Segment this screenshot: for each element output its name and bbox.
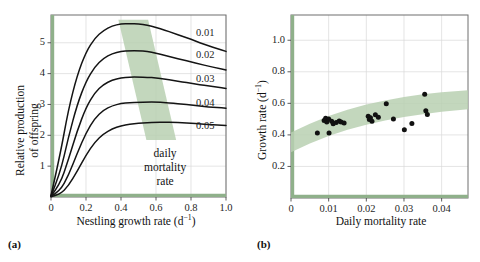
annotation-line-3: rate [156, 175, 173, 187]
panel-b-data-point [391, 116, 396, 121]
panel-b-y-tick-label: 0.6 [245, 98, 285, 109]
panel-b-data-point [425, 112, 430, 117]
panel-b-x-tick-label: 0.04 [422, 204, 462, 215]
panel-a-x-tick-label: 0.4 [101, 203, 141, 214]
panel-a-curve-0_04 [51, 102, 226, 196]
panel-b-y-tick-label: 0.2 [245, 161, 285, 172]
panel-a-x-tick-label: 0.6 [136, 203, 176, 214]
panel-a-x-tick-label: 0.2 [66, 203, 106, 214]
panel-a-curve-label-0_05: 0.05 [196, 120, 214, 131]
annotation-line-2: mortality [144, 161, 186, 173]
daily-mortality-rate-annotation: daily mortality rate [144, 146, 186, 188]
panel-a-x-axis-title: Nestling growth rate (d−1) [51, 215, 221, 227]
panel-b-data-point [342, 120, 347, 125]
panel-a-curve-label-0_03: 0.03 [196, 73, 214, 84]
panel-b-data-point [369, 119, 374, 124]
panel-a-curve-label-0_01: 0.01 [196, 27, 214, 38]
annotation-line-1: daily [154, 147, 177, 159]
figure-root: Relative production of offspring Nestlin… [0, 0, 480, 262]
panel-b-data-point [376, 115, 381, 120]
panel-a-y-tick-label: 5 [5, 37, 45, 48]
panel-b-data-point [402, 127, 407, 132]
panel-a-y-tick-label: 4 [5, 68, 45, 79]
panel-b-data-point [422, 92, 427, 97]
panel-a-x-tick-label: 0 [31, 203, 71, 214]
panel-a-x-tick-label: 0.8 [171, 203, 211, 214]
panel-b-x-tick-label: 0.02 [346, 204, 386, 215]
panel-b-y-tick-label: 1.0 [245, 35, 285, 46]
panel-b-y-axis-title: Growth rate (d−1) [256, 80, 268, 160]
panel-b-y-tick-label: 0.4 [245, 129, 285, 140]
panel-a-y-tick-label: 3 [5, 99, 45, 110]
panel-b-x-tick-label: 0 [271, 204, 311, 215]
panel-b-y-tick-label: 0.8 [245, 66, 285, 77]
panel-a-y-tick-label: 1 [5, 161, 45, 172]
panel-b: Growth rate (d−1) Daily mortality rate (… [240, 0, 480, 262]
panel-b-x-tick-label: 0.01 [309, 204, 349, 215]
panel-a: Relative production of offspring Nestlin… [0, 0, 240, 262]
panel-b-data-point [327, 131, 332, 136]
panel-letter-b: (b) [257, 238, 270, 250]
panel-a-y-tick-label: 2 [5, 130, 45, 141]
panel-b-x-tick-label: 0.03 [384, 204, 424, 215]
panel-letter-a: (a) [8, 238, 21, 250]
panel-a-curve-label-0_04: 0.04 [196, 97, 214, 108]
panel-b-data-point [409, 121, 414, 126]
panel-b-data-point [315, 131, 320, 136]
panel-a-curve-label-0_02: 0.02 [196, 49, 214, 60]
panel-b-x-axis-title: Daily mortality rate [291, 215, 471, 227]
panel-b-data-point [384, 101, 389, 106]
